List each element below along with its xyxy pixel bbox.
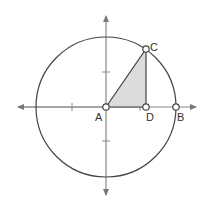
point-C — [143, 46, 149, 52]
label-C: C — [150, 41, 158, 53]
diagram-canvas: A C D B — [0, 0, 203, 206]
label-B: B — [177, 111, 184, 123]
label-D: D — [146, 111, 154, 123]
label-A: A — [95, 111, 103, 123]
point-D — [143, 104, 149, 110]
point-B — [173, 104, 179, 110]
triangle-ACD — [106, 49, 146, 107]
point-A — [103, 104, 109, 110]
